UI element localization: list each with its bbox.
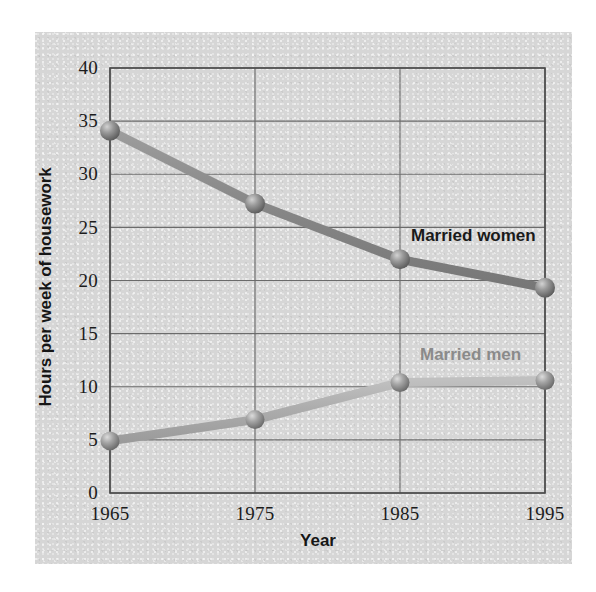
chart-figure: 40 35 30 25 20 15 10 5 0 1965 1975 1985 … bbox=[0, 0, 596, 592]
y-tick-label-25: 25 bbox=[52, 217, 98, 239]
data-point bbox=[100, 121, 120, 141]
y-tick-label-0: 0 bbox=[52, 482, 98, 504]
x-tick-label-1995: 1995 bbox=[505, 503, 585, 525]
data-point bbox=[246, 410, 265, 429]
y-tick-label-10: 10 bbox=[52, 376, 98, 398]
data-point bbox=[391, 373, 410, 392]
x-tick-label-1985: 1985 bbox=[360, 503, 440, 525]
series-line-married-women bbox=[110, 131, 545, 288]
series-label-married-men: Married men bbox=[420, 345, 521, 365]
y-tick-label-15: 15 bbox=[52, 323, 98, 345]
data-point bbox=[390, 249, 410, 269]
y-axis-title: Hours per week of housework bbox=[36, 137, 56, 437]
series-married-men bbox=[101, 371, 555, 450]
y-tick-label-40: 40 bbox=[52, 57, 98, 79]
series-line-married-men bbox=[110, 381, 545, 441]
series-married-women bbox=[100, 121, 555, 298]
data-point bbox=[536, 371, 555, 390]
data-point bbox=[535, 278, 555, 298]
y-tick-label-30: 30 bbox=[52, 163, 98, 185]
y-tick-label-5: 5 bbox=[52, 429, 98, 451]
y-tick-label-35: 35 bbox=[52, 110, 98, 132]
x-tick-label-1975: 1975 bbox=[215, 503, 295, 525]
data-point bbox=[101, 431, 120, 450]
y-tick-label-20: 20 bbox=[52, 270, 98, 292]
x-axis-title: Year bbox=[258, 531, 378, 551]
data-point bbox=[245, 194, 265, 214]
x-tick-label-1965: 1965 bbox=[70, 503, 150, 525]
series-label-married-women: Married women bbox=[411, 226, 536, 246]
